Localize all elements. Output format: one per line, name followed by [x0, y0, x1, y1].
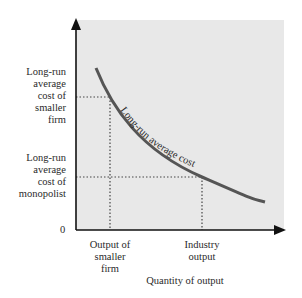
x-axis-title: Quantity of output — [120, 275, 250, 287]
x-label-industry-output: Industryoutput — [172, 239, 232, 263]
origin-label: 0 — [60, 224, 65, 236]
x-label-smaller-firm-output: Output ofsmallerfirm — [80, 239, 140, 275]
y-label-monopolist-cost: Long-runaveragecost ofmonopolist — [19, 152, 66, 200]
y-label-smaller-firm-cost: Long-runaveragecost ofsmallerfirm — [26, 66, 66, 126]
lrac-diagram: Long-run average cost — [0, 0, 302, 298]
